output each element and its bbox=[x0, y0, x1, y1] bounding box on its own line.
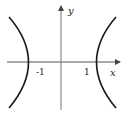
x-axis-label: x bbox=[110, 67, 116, 78]
hyperbola-diagram: -1 1 x y bbox=[0, 0, 136, 120]
tick-label-1: 1 bbox=[84, 67, 90, 77]
y-axis-label: y bbox=[67, 5, 74, 16]
tick-label-neg1: -1 bbox=[36, 67, 45, 77]
